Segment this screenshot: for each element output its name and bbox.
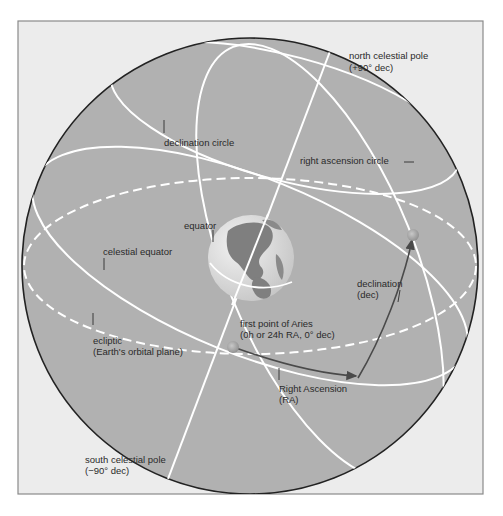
label-first-point-of-aries: first point of Aries (240, 318, 313, 329)
label-south-celestial-pole-dec: (−90° dec) (85, 465, 129, 476)
label-declination: declination (357, 278, 402, 289)
first-point-of-aries-marker (227, 341, 239, 353)
label-south-celestial-pole: south celestial pole (85, 454, 166, 465)
label-declination-circle: declination circle (164, 137, 234, 148)
label-ecliptic: ecliptic (93, 335, 122, 346)
label-right-ascension: Right Ascension (279, 383, 347, 394)
label-north-celestial-pole: north celestial pole (349, 50, 428, 61)
star-position-marker (407, 229, 419, 241)
label-equator: equator (184, 220, 216, 231)
celestial-sphere-diagram: north celestial pole (+90° dec) declinat… (0, 0, 503, 516)
label-first-point-of-aries-coords: (0h or 24h RA, 0° dec) (240, 329, 335, 340)
label-declination-abbrev: (dec) (357, 289, 379, 300)
label-celestial-equator: celestial equator (103, 246, 172, 257)
label-north-celestial-pole-dec: (+90° dec) (349, 62, 393, 73)
label-right-ascension-circle: right ascension circle (300, 155, 389, 166)
label-ecliptic-desc: (Earth's orbital plane) (93, 346, 183, 357)
label-right-ascension-abbrev: (RA) (279, 394, 299, 405)
